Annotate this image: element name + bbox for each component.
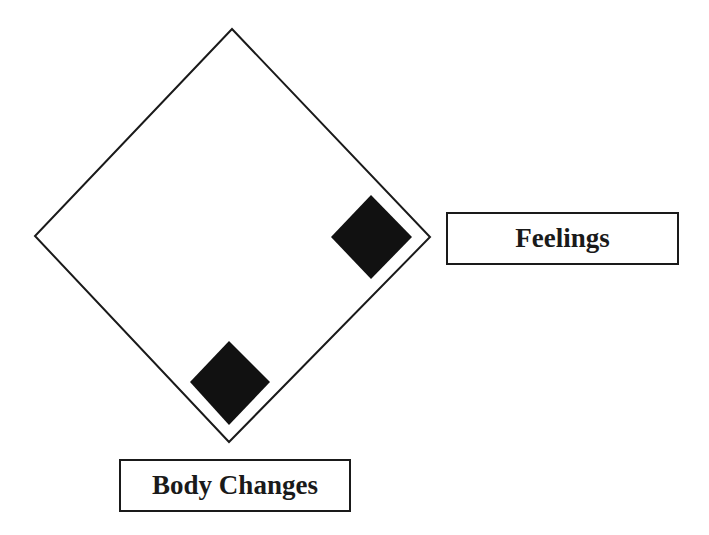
body-changes-label: Body Changes	[152, 470, 318, 501]
body-changes-label-box: Body Changes	[119, 459, 351, 512]
diagram-canvas	[0, 0, 709, 535]
feelings-label-box: Feelings	[446, 212, 679, 265]
feelings-label: Feelings	[515, 223, 610, 254]
